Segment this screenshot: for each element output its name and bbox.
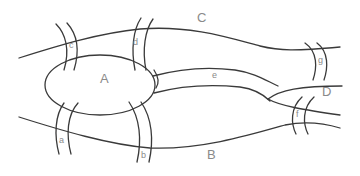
bridge-label-c: c xyxy=(69,41,74,50)
bridge-label-d: d xyxy=(133,38,138,47)
bridge-b-left xyxy=(129,102,140,162)
bridge-label-b: b xyxy=(141,151,146,160)
river-bank-d-lower xyxy=(268,99,340,115)
konigsberg-bridges-diagram: A B C D a b c d e f g xyxy=(0,0,360,176)
bridge-label-a: a xyxy=(59,136,64,145)
bridge-label-e: e xyxy=(212,71,217,80)
bridge-d-right xyxy=(144,19,153,70)
region-label-a: A xyxy=(100,72,109,85)
diagram-drawing xyxy=(0,0,360,176)
region-label-c: C xyxy=(197,11,206,24)
region-label-d: D xyxy=(322,85,331,98)
region-label-b: B xyxy=(207,148,216,161)
channel-lower-bank xyxy=(154,86,270,101)
bridge-label-f: f xyxy=(296,110,299,119)
bridge-f-right xyxy=(304,97,314,134)
river-bank-south xyxy=(19,117,340,148)
bridge-label-g: g xyxy=(318,56,323,65)
